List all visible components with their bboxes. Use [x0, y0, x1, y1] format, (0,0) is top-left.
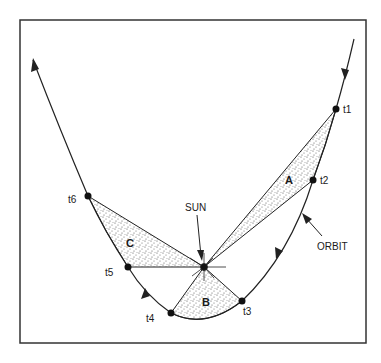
region-b-sector	[171, 267, 242, 319]
arrow-head-icon	[275, 247, 283, 259]
arrow-head-icon	[31, 58, 39, 72]
sun-label: SUN	[185, 202, 206, 213]
sun-pointer-arrow-icon	[197, 250, 204, 261]
label-t1: t1	[343, 104, 352, 115]
region-b-label: B	[202, 296, 210, 308]
orbit-label: ORBIT	[317, 241, 348, 252]
arrow-head-icon	[341, 68, 349, 80]
label-t5: t5	[105, 267, 114, 278]
point-t2	[310, 177, 317, 184]
point-t3	[239, 298, 246, 305]
point-t5	[125, 264, 132, 271]
label-t3: t3	[243, 306, 252, 317]
point-t4	[168, 310, 175, 317]
label-t4: t4	[146, 313, 155, 324]
point-t6	[85, 193, 92, 200]
label-t6: t6	[68, 194, 77, 205]
region-c-label: C	[126, 237, 134, 249]
point-t1	[333, 106, 340, 113]
orbit-diagram: SUN ORBIT t1 t2 t3 t4 t5 t6 A B C	[0, 0, 381, 363]
region-a-label: A	[285, 174, 293, 186]
label-t2: t2	[320, 175, 329, 186]
sun-pointer-line	[197, 215, 201, 256]
